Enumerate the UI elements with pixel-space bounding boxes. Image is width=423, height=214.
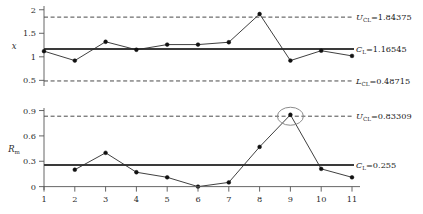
data-point[interactable]: [350, 54, 354, 58]
x-axis-tick-label: 4: [134, 194, 139, 204]
data-point[interactable]: [258, 145, 262, 149]
y-axis-tick-label: 1: [31, 52, 36, 62]
x-axis-tick-label: 5: [165, 194, 170, 204]
y-axis-tick-label: 0.6: [23, 131, 36, 141]
data-line: [75, 115, 352, 187]
chart-canvas: 21.510.5xUCL=1.84375CL=1.16545LCL=0.4871…: [0, 0, 423, 214]
x-axis-tick-label: 9: [288, 194, 293, 204]
ucl-label: UCL=1.84375: [356, 12, 412, 23]
cl-label: CL=0.255: [356, 160, 396, 171]
individuals-chart: 21.510.5xUCL=1.84375CL=1.16545LCL=0.4871…: [12, 5, 412, 87]
x-axis-tick-label: 3: [103, 194, 108, 204]
data-point[interactable]: [165, 43, 169, 47]
data-point[interactable]: [289, 59, 293, 63]
y-axis-tick-label: 0: [31, 182, 36, 192]
y-axis-name: x: [12, 41, 17, 51]
y-axis-name: Rm: [7, 144, 20, 155]
data-point[interactable]: [73, 168, 77, 172]
data-point[interactable]: [135, 170, 139, 174]
data-point[interactable]: [104, 151, 108, 155]
data-point[interactable]: [196, 43, 200, 47]
data-point[interactable]: [135, 48, 139, 52]
x-axis-tick-label: 7: [226, 194, 231, 204]
x-axis-tick-label: 10: [316, 194, 326, 204]
data-point[interactable]: [227, 40, 231, 44]
ucl-label: UCL=0.83309: [356, 111, 412, 122]
data-line: [44, 14, 352, 61]
x-axis: 1234567891011: [41, 187, 360, 204]
y-axis-tick-label: 0.9: [23, 106, 36, 116]
data-point[interactable]: [42, 49, 46, 53]
x-axis-tick-label: 8: [257, 194, 262, 204]
data-point[interactable]: [350, 175, 354, 179]
data-point[interactable]: [165, 175, 169, 179]
cl-label: CL=1.16545: [356, 44, 407, 55]
x-axis-tick-label: 1: [41, 194, 46, 204]
data-point[interactable]: [227, 180, 231, 184]
y-axis-tick-label: 2: [31, 5, 36, 15]
data-point[interactable]: [319, 49, 323, 53]
data-point[interactable]: [289, 113, 293, 117]
control-chart-figure: 21.510.5xUCL=1.84375CL=1.16545LCL=0.4871…: [0, 0, 423, 214]
y-axis-tick-label: 0.5: [23, 75, 36, 85]
data-point[interactable]: [104, 40, 108, 44]
x-axis-tick-label: 11: [347, 194, 357, 204]
data-point[interactable]: [258, 12, 262, 16]
lcl-label: LCL=0.48715: [355, 76, 410, 87]
y-axis-tick-label: 0.3: [23, 156, 36, 166]
x-axis-tick-label: 2: [72, 194, 77, 204]
data-point[interactable]: [73, 59, 77, 63]
moving-range-chart: 0.90.60.30RmUCL=0.83309CL=0.255: [7, 106, 411, 192]
data-point[interactable]: [319, 167, 323, 171]
y-axis-tick-label: 1.5: [23, 28, 36, 38]
x-axis-tick-label: 6: [195, 194, 200, 204]
